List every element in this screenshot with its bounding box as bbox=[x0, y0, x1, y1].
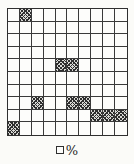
answer-row: % bbox=[0, 140, 134, 160]
grid-cell bbox=[32, 47, 44, 60]
grid-cell bbox=[67, 85, 79, 98]
grid-cell bbox=[91, 85, 103, 98]
grid-cell bbox=[67, 34, 79, 47]
grid-cell bbox=[103, 34, 115, 47]
grid-cell bbox=[91, 34, 103, 47]
grid-cell bbox=[44, 9, 56, 22]
grid-cell bbox=[56, 9, 68, 22]
grid-cell bbox=[79, 85, 91, 98]
grid-cell bbox=[79, 110, 91, 123]
grid-cell-shaded bbox=[56, 59, 68, 72]
grid-cell bbox=[32, 72, 44, 85]
grid-cell bbox=[91, 72, 103, 85]
grid-cell bbox=[91, 22, 103, 35]
grid-cell bbox=[79, 47, 91, 60]
grid-cell bbox=[56, 22, 68, 35]
percent-grid-figure: % bbox=[0, 0, 134, 164]
grid-cell bbox=[32, 110, 44, 123]
grid-cell bbox=[20, 110, 32, 123]
hundred-grid bbox=[7, 8, 128, 136]
grid-cell bbox=[8, 72, 20, 85]
answer-blank-square bbox=[56, 146, 64, 154]
grid-cell bbox=[67, 9, 79, 22]
grid-cell-shaded bbox=[91, 110, 103, 123]
grid-cell bbox=[44, 85, 56, 98]
grid-cell bbox=[20, 72, 32, 85]
grid-cell bbox=[103, 85, 115, 98]
grid-cell bbox=[56, 97, 68, 110]
grid-cell bbox=[67, 47, 79, 60]
grid-cell bbox=[91, 97, 103, 110]
grid-cell bbox=[8, 34, 20, 47]
grid-cell bbox=[8, 59, 20, 72]
grid-cell bbox=[115, 85, 127, 98]
grid-cell-shaded bbox=[79, 97, 91, 110]
grid-cell bbox=[20, 47, 32, 60]
grid-cell-shaded bbox=[67, 97, 79, 110]
grid-cell bbox=[79, 59, 91, 72]
grid-cell bbox=[67, 122, 79, 135]
grid-cell bbox=[79, 9, 91, 22]
grid-cell bbox=[44, 110, 56, 123]
grid-cell bbox=[32, 34, 44, 47]
grid-cell bbox=[79, 72, 91, 85]
grid-cell bbox=[67, 110, 79, 123]
grid-cell-shaded bbox=[20, 9, 32, 22]
grid-cell bbox=[56, 34, 68, 47]
grid-cell bbox=[115, 47, 127, 60]
grid-cell bbox=[20, 97, 32, 110]
grid-cell bbox=[91, 47, 103, 60]
grid-cell bbox=[8, 47, 20, 60]
grid-cell bbox=[103, 9, 115, 22]
grid-cell bbox=[79, 122, 91, 135]
grid-cell bbox=[115, 59, 127, 72]
grid-cell bbox=[20, 22, 32, 35]
grid-cell bbox=[115, 9, 127, 22]
grid-cell bbox=[91, 9, 103, 22]
grid-cell bbox=[79, 22, 91, 35]
percent-sign: % bbox=[66, 144, 78, 157]
grid-cell bbox=[8, 110, 20, 123]
grid-cell bbox=[8, 22, 20, 35]
grid-cell bbox=[56, 122, 68, 135]
grid-cell-shaded bbox=[103, 110, 115, 123]
grid-cell-shaded bbox=[115, 110, 127, 123]
grid-cell bbox=[103, 122, 115, 135]
grid-cell bbox=[8, 85, 20, 98]
grid-cell bbox=[32, 22, 44, 35]
grid-cell bbox=[20, 85, 32, 98]
grid-cell bbox=[115, 97, 127, 110]
grid-cell bbox=[32, 122, 44, 135]
grid-cell bbox=[67, 22, 79, 35]
grid-cell bbox=[103, 59, 115, 72]
grid-cell bbox=[103, 22, 115, 35]
grid-cell bbox=[56, 85, 68, 98]
grid-cell bbox=[20, 34, 32, 47]
grid-cell bbox=[44, 97, 56, 110]
grid-cell bbox=[91, 122, 103, 135]
grid-cell bbox=[20, 122, 32, 135]
grid-cell bbox=[103, 47, 115, 60]
grid-cell bbox=[32, 59, 44, 72]
grid-cell bbox=[44, 34, 56, 47]
grid-cell bbox=[44, 22, 56, 35]
grid-cell-shaded bbox=[32, 97, 44, 110]
grid-cell bbox=[115, 22, 127, 35]
grid-cell bbox=[67, 72, 79, 85]
grid-cell bbox=[8, 97, 20, 110]
grid-cell bbox=[103, 97, 115, 110]
grid-cell bbox=[79, 34, 91, 47]
grid-cell bbox=[20, 59, 32, 72]
grid-cell-shaded bbox=[67, 59, 79, 72]
grid-cell bbox=[32, 9, 44, 22]
grid-cell bbox=[115, 122, 127, 135]
grid-cell bbox=[44, 122, 56, 135]
grid-cell bbox=[56, 72, 68, 85]
grid-cell bbox=[44, 47, 56, 60]
grid-cell bbox=[115, 34, 127, 47]
grid-cell bbox=[44, 59, 56, 72]
grid-cell bbox=[91, 59, 103, 72]
grid-cell bbox=[56, 47, 68, 60]
grid-cell bbox=[115, 72, 127, 85]
grid-cell bbox=[103, 72, 115, 85]
